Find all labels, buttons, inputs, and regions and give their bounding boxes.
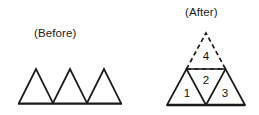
after-label-3: 3 (222, 87, 228, 99)
after-label-2: 2 (203, 74, 209, 86)
after-label-4: 4 (203, 50, 210, 62)
after-diagram: 1 2 3 4 (0, 0, 259, 115)
after-label-1: 1 (184, 87, 190, 99)
figure-root: (Before) (After) 1 2 3 4 (0, 0, 259, 115)
